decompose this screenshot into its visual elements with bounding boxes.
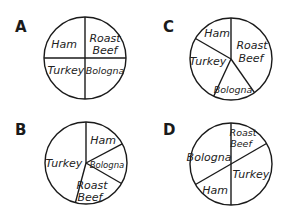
slice-label-roast-beef-line1: Roast [236,39,268,52]
slice-label-bologna: Bologna [90,160,125,170]
pie-panel-c: C Ham Roast Beef Turkey Bologna [150,0,299,112]
pie-panel-b: B Ham Bologna Roast Beef Turkey [0,112,150,224]
pie-chart-d: Roast Beef Turkey Bologna Ham [150,112,299,224]
slice-label-bologna: Bologna [86,65,125,76]
pie-chart-c: Ham Roast Beef Turkey Bologna [150,0,299,112]
slice-label-ham: Ham [204,27,230,40]
slice-label-ham: Ham [90,134,116,147]
slice-label-roast-beef-line2: Beef [78,191,105,204]
pie-panel-a: A Ham Roast Beef Turkey Bologna [0,0,150,112]
slice-label-roast-beef-line1: Roast [230,127,258,138]
slice-label-roast-beef-line2: Beef [239,52,266,65]
slice-label-ham: Ham [51,38,77,51]
slice-label-bologna: Bologna [214,84,253,95]
slice-label-roast-beef-line2: Beef [230,138,253,149]
pie-panel-d: D Roast Beef Turkey Bologna Ham [150,112,299,224]
slice-label-turkey: Turkey [46,157,83,170]
slice-label-ham: Ham [202,184,228,197]
slice-label-turkey: Turkey [48,64,85,77]
slice-label-turkey: Turkey [233,168,270,181]
pie-chart-b: Ham Bologna Roast Beef Turkey [0,112,150,224]
slice-label-bologna: Bologna [187,151,232,164]
pie-chart-a: Ham Roast Beef Turkey Bologna [0,0,150,112]
slice-label-roast-beef-line2: Beef [93,44,120,57]
slice-label-turkey: Turkey [190,55,227,68]
